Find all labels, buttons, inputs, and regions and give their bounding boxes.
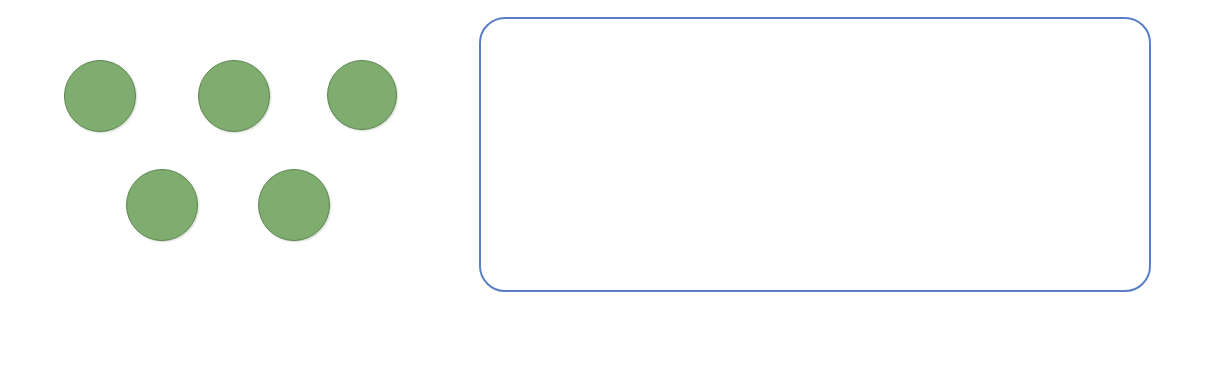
- counter-circle-1: [64, 60, 136, 132]
- counter-circle-2: [198, 60, 270, 132]
- counter-group: [0, 0, 470, 300]
- worksheet-page: 5 + =: [0, 0, 1208, 385]
- equation-row: 5 + =: [0, 300, 1208, 385]
- work-area-box[interactable]: [479, 17, 1151, 292]
- counter-circle-5: [258, 169, 330, 241]
- counter-circle-4: [126, 169, 198, 241]
- counter-circle-3: [327, 60, 397, 130]
